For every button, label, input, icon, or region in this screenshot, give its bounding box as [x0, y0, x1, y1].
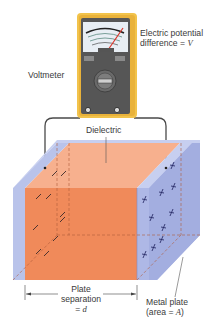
capacitor-diagram: [0, 0, 214, 326]
dielectric-label: Dielectric: [86, 125, 121, 135]
metal-plate-label: Metal plate (area = A): [146, 297, 188, 317]
separation-label: Plate separation = d: [57, 284, 105, 314]
voltage-label: Electric potential difference = V: [140, 28, 203, 48]
voltmeter: [77, 13, 137, 118]
voltmeter-label: Voltmeter: [28, 70, 64, 80]
capacitor: [13, 140, 200, 280]
plate-leader: [175, 257, 183, 297]
